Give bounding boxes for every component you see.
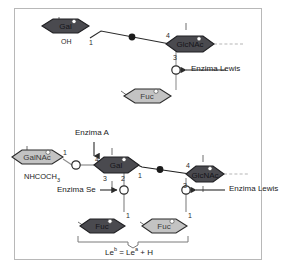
bottom-glcnac-label: GlcNAc: [191, 171, 218, 180]
bottom-fuc-left-one-number: 1: [126, 212, 130, 219]
bottom-sugar-glcnac: GlcNAc: [186, 166, 224, 182]
bottom-sugar-fuc-left: Fuc: [80, 219, 125, 233]
bottom-gal-three-number: 3: [103, 175, 107, 182]
bottom-glcnac-three-number: 3: [183, 182, 187, 189]
bottom-enzima-se-label: Enzima Se: [57, 186, 96, 194]
bottom-galnac-label: GalNAc: [23, 153, 51, 162]
top-linkage-circle: [172, 66, 180, 74]
bottom-enzima-lewis-label: Enzima Lewis: [229, 185, 278, 193]
top-backbone-lines: [59, 17, 243, 96]
top-sugar-fuc: Fuc: [124, 89, 171, 103]
top-sugar-gal: Gal: [42, 19, 89, 33]
bottom-gal-two-number: 2: [121, 175, 125, 182]
bottom-sugar-galnac: GalNAc: [12, 150, 63, 164]
top-branch-node: [129, 34, 136, 41]
bottom-gal-four-number: 4: [95, 156, 99, 163]
bottom-sugar-fuc-right: Fuc: [142, 219, 187, 233]
bottom-gal-label: Gal: [110, 161, 123, 170]
bottom-fuc-left-label: Fuc: [95, 222, 108, 231]
figure-page: Gal GlcNAc Fuc: [0, 0, 296, 274]
top-glcnac-label: GlcNAc: [176, 40, 203, 49]
bottom-linkage-circle-a: [72, 161, 80, 169]
bottom-branch-node: [157, 166, 164, 173]
top-glcnac-three-number: 3: [173, 54, 177, 61]
top-enzima-lewis-label: Enzima Lewis: [191, 65, 240, 73]
bottom-linkage-circle-se: [120, 186, 128, 194]
top-oh-label: OH: [61, 38, 72, 45]
top-gal-anomeric-number: 1: [89, 39, 93, 46]
bottom-sugar-gal: Gal: [94, 157, 139, 173]
top-glcnac-four-number: 4: [166, 32, 170, 39]
bottom-galnac-anomeric-number: 1: [63, 149, 67, 156]
bottom-glcnac-four-number: 4: [186, 162, 190, 169]
bottom-fuc-right-label: Fuc: [157, 222, 170, 231]
diagram-canvas: Gal GlcNAc Fuc: [0, 0, 296, 274]
bottom-fuc-right-one-number: 1: [188, 212, 192, 219]
equation-label: Leb = Lea + H: [105, 247, 153, 257]
top-fuc-label: Fuc: [140, 92, 153, 101]
top-gal-label: Gal: [59, 22, 72, 31]
bottom-gal-one-number: 1: [138, 172, 142, 179]
top-sugar-glcnac: GlcNAc: [166, 36, 214, 52]
bottom-nhcoch3-label: NHCOCH3: [24, 173, 60, 183]
bottom-enzima-a-label: Enzima A: [75, 129, 109, 137]
